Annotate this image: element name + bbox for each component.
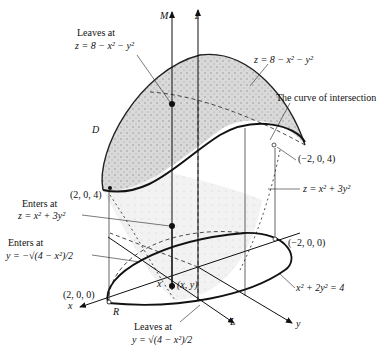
enters-z-label-1: Enters at <box>22 198 57 209</box>
curve-label: The curve of intersection <box>276 92 376 103</box>
axis-label-x: x <box>67 300 73 311</box>
enters-y-label-2: y = −√(4 − x²)/2 <box>5 250 73 262</box>
point-204-label: (2, 0, 4) <box>70 189 102 201</box>
point-200-label: (2, 0, 0) <box>63 289 95 301</box>
axis-label-z: z <box>194 10 199 21</box>
point-xy-label: (x, y) <box>177 279 198 291</box>
lower-surface-label: z = x² + 3y² <box>302 183 351 194</box>
point-neg200-label: (−2, 0, 0) <box>288 237 325 249</box>
region-label-d: D <box>91 124 100 135</box>
axis-label-l: L <box>229 316 236 327</box>
leader-neg204 <box>277 147 296 160</box>
region-integration-diagram: M z x y L D R x (x, y) Leaves at z = 8 −… <box>0 0 392 355</box>
leaves-top-label-1: Leaves at <box>77 27 115 38</box>
leader-leaves-y <box>180 305 200 322</box>
point-neg204-label: (−2, 0, 4) <box>298 153 335 165</box>
point-2-0-0 <box>107 300 111 304</box>
leaves-y-label-1: Leaves at <box>134 321 172 332</box>
point-xy <box>169 283 175 289</box>
axis-label-y: y <box>295 318 301 329</box>
point-2-0-4 <box>108 186 112 190</box>
enters-z-label-2: z = x² + 3y² <box>17 210 66 221</box>
point-x-label: x <box>156 278 162 289</box>
leader-ellipse <box>280 274 295 288</box>
enters-y-label-1: Enters at <box>8 237 43 248</box>
point-neg2-0-0 <box>273 237 277 241</box>
upper-surface-shading <box>102 54 305 190</box>
point-neg2-0-4 <box>272 143 276 147</box>
ellipse-label: x² + 2y² = 4 <box>295 282 344 293</box>
leader-enters-y <box>92 255 140 262</box>
upper-surface-label: z = 8 − x² − y² <box>253 54 314 65</box>
axis-label-m: M <box>159 10 169 21</box>
leaves-top-label-2: z = 8 − x² − y² <box>74 40 135 51</box>
leaves-y-label-2: y = √(4 − x²)/2 <box>131 334 192 346</box>
region-label-r: R <box>112 306 119 317</box>
